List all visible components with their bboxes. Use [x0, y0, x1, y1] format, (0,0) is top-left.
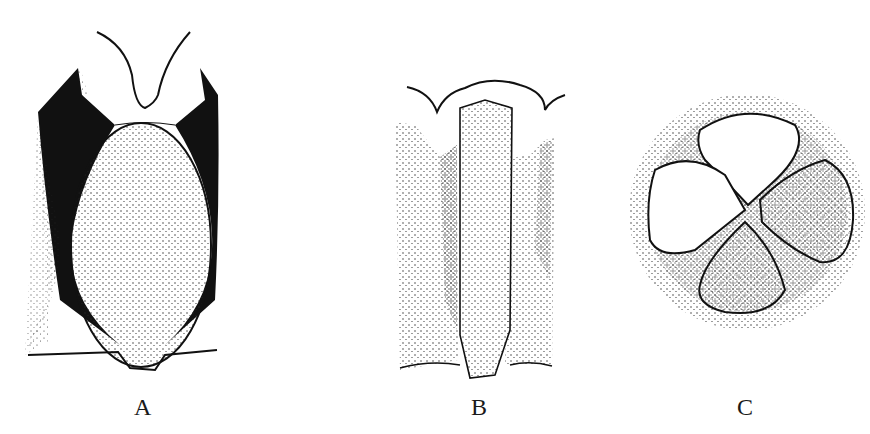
panel-a-drawing: [25, 32, 219, 370]
panel-label-a: A: [134, 394, 151, 421]
panel-b-drawing: [395, 81, 565, 378]
figure: A B C: [0, 0, 870, 434]
panel-label-b: B: [471, 394, 487, 421]
panel-label-c: C: [737, 394, 753, 421]
illustration: [0, 0, 870, 434]
panel-c-drawing: [629, 94, 865, 330]
